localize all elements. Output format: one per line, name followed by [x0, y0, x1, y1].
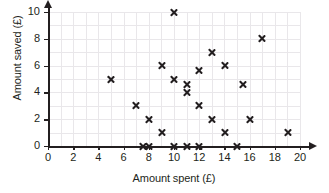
y-axis-tick-label: 4: [16, 85, 40, 97]
x-axis-title: Amount spent (£): [48, 172, 300, 184]
x-axis-tick: [124, 146, 125, 150]
x-axis-tick: [224, 146, 225, 150]
data-point-marker: [207, 115, 216, 124]
data-point-marker: [157, 128, 166, 137]
data-point-marker: [170, 8, 179, 17]
x-axis-tick-label: 0: [37, 151, 59, 163]
y-axis-tick-label: 10: [16, 5, 40, 17]
data-point-marker: [107, 75, 116, 84]
y-axis-tick: [44, 146, 48, 147]
gridline-horizontal: [48, 66, 300, 67]
y-axis-arrow-icon: [44, 0, 52, 8]
x-axis-tick-label: 18: [264, 151, 286, 163]
data-point-marker: [182, 88, 191, 97]
gridline-horizontal: [48, 52, 300, 53]
gridline-horizontal: [48, 133, 300, 134]
x-axis-tick: [149, 146, 150, 150]
x-axis-tick: [48, 146, 49, 150]
y-axis-tick: [44, 12, 48, 13]
x-axis-tick-label: 6: [113, 151, 135, 163]
gridline-horizontal: [48, 106, 300, 107]
y-axis-tick: [44, 39, 48, 40]
data-point-marker: [157, 61, 166, 70]
data-point-marker: [170, 75, 179, 84]
x-axis-arrow-icon: [309, 142, 317, 150]
y-axis-tick-label: 0: [16, 139, 40, 151]
y-axis-tick-label: 8: [16, 32, 40, 44]
x-axis-tick: [250, 146, 251, 150]
gridline-vertical: [300, 12, 301, 146]
data-point-marker: [207, 48, 216, 57]
y-axis-tick-label: 6: [16, 59, 40, 71]
data-point-marker: [220, 128, 229, 137]
x-axis-tick-label: 14: [213, 151, 235, 163]
gridline-horizontal: [48, 92, 300, 93]
data-point-marker: [132, 101, 141, 110]
y-axis-tick-label: 2: [16, 112, 40, 124]
x-axis-tick: [174, 146, 175, 150]
data-point-marker: [245, 115, 254, 124]
gridline-horizontal: [48, 119, 300, 120]
data-point-marker: [239, 80, 248, 89]
y-axis-tick: [44, 92, 48, 93]
x-axis-tick-label: 16: [239, 151, 261, 163]
x-axis-tick-label: 2: [62, 151, 84, 163]
data-point-marker: [144, 115, 153, 124]
y-axis-tick: [44, 119, 48, 120]
data-point-marker: [258, 34, 267, 43]
data-point-marker: [195, 101, 204, 110]
x-axis-tick: [300, 146, 301, 150]
data-point-marker: [195, 66, 204, 75]
x-axis-tick: [98, 146, 99, 150]
x-axis-tick-label: 12: [188, 151, 210, 163]
data-point-marker: [283, 128, 292, 137]
gridline-horizontal: [48, 25, 300, 26]
x-axis-tick: [275, 146, 276, 150]
x-axis-tick: [73, 146, 74, 150]
y-axis-tick: [44, 66, 48, 67]
y-axis-line: [48, 8, 50, 147]
x-axis-tick: [199, 146, 200, 150]
x-axis-tick-label: 4: [87, 151, 109, 163]
plot-area: [48, 12, 300, 146]
scatter-chart: Amount saved (£) Amount spent (£) 024681…: [0, 0, 329, 193]
x-axis-tick-label: 20: [289, 151, 311, 163]
x-axis-tick-label: 10: [163, 151, 185, 163]
data-point-marker: [220, 61, 229, 70]
x-axis-tick-label: 8: [138, 151, 160, 163]
x-axis-line: [48, 146, 311, 148]
